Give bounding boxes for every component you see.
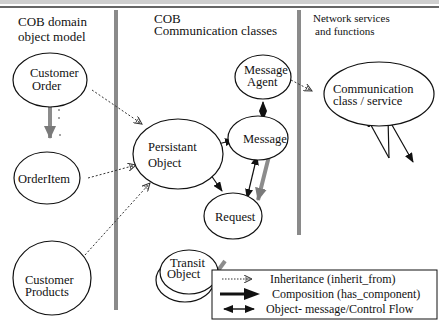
svg-text:Inheritance (inherit_from): Inheritance (inherit_from) [270,272,396,286]
top-banner [0,0,439,7]
header-network: Network services and functions [313,12,392,37]
header-domain: COB domain object model [18,14,90,44]
node-customer-products: Customer Products [13,241,91,315]
header-communication: COB Communication classes [154,11,277,38]
cob-architecture-diagram: COB domain object model COB Communicatio… [0,0,439,329]
node-message: Message [228,116,288,160]
svg-text:Message: Message [243,132,287,146]
svg-text:Request: Request [215,210,256,224]
legend: Inheritance (inherit_from) Composition (… [212,270,437,319]
edge-order-item-to-persistant [88,165,136,178]
node-persistant-object: Persistant Object [133,119,223,189]
svg-text:Composition (has_component): Composition (has_component) [272,287,420,301]
node-communication-service: Communication class / service [324,62,434,126]
node-transit-object: Transit Object [156,250,218,302]
column-divider-left [114,10,118,310]
node-customer-order: Customer Order [13,53,87,107]
column-divider-right [297,10,301,235]
node-message-agent: Message Agent [235,55,291,99]
svg-text:Object- message/Control Flow: Object- message/Control Flow [266,302,414,316]
node-order-item: OrderItem [14,152,80,204]
node-request: Request [204,193,262,239]
svg-text:OrderItem: OrderItem [18,172,70,186]
edge-message-request [247,156,257,198]
edge-message-agent-to-comm-service [291,80,312,91]
dotted-trail [58,109,61,136]
